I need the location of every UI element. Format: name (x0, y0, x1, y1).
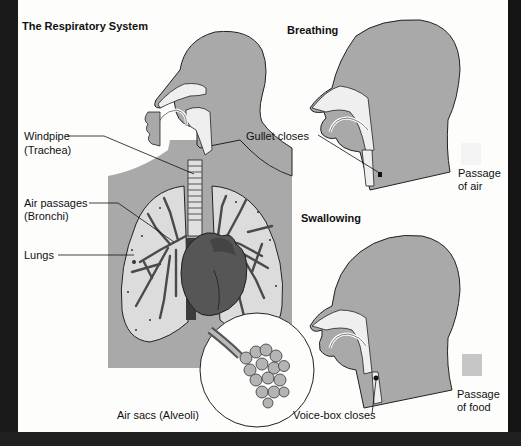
respiratory-illustration (0, 0, 521, 446)
passage-of-air-swatch (461, 143, 481, 165)
bronchi-label: (Bronchi) (24, 210, 69, 223)
passage-of-food-swatch (462, 354, 482, 376)
swallowing-head (310, 235, 460, 414)
main-figure (58, 31, 314, 427)
air-sacs-label: Air sacs (Alveoli) (117, 409, 199, 422)
windpipe-label: Windpipe (24, 130, 70, 143)
figure-title: The Respiratory System (22, 20, 148, 32)
voice-box-closes-label: Voice-box closes (293, 409, 376, 422)
gullet-closes-label: Gullet closes (246, 130, 309, 143)
breathing-head (310, 20, 460, 190)
passage-of-food-label-1: Passage (457, 388, 500, 401)
lungs-label: Lungs (24, 249, 54, 262)
passage-of-air-label-1: Passage (458, 167, 501, 180)
air-passages-label: Air passages (24, 197, 88, 210)
passage-of-food-label-2: of food (457, 401, 491, 414)
breathing-title: Breathing (287, 24, 338, 36)
trachea-label: (Trachea) (24, 144, 71, 157)
swallowing-title: Swallowing (301, 212, 361, 224)
passage-of-air-label-2: of air (458, 180, 482, 193)
